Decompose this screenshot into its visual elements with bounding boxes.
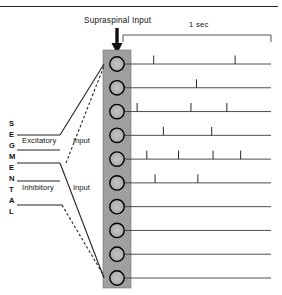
spike-train-row bbox=[110, 223, 271, 237]
neuron-soma bbox=[110, 199, 124, 213]
neuron-soma bbox=[110, 176, 124, 190]
figure-canvas: Supraspinal Input 1 sec S E G M E N T A … bbox=[0, 0, 282, 295]
spike-train-row bbox=[110, 271, 271, 285]
neuron-soma bbox=[110, 104, 124, 118]
segmental-bracket-rails bbox=[17, 135, 62, 205]
neuron-soma bbox=[110, 271, 124, 285]
spike-train-row bbox=[110, 79, 271, 95]
spike-train-row bbox=[110, 56, 271, 72]
spike-train-row bbox=[110, 247, 271, 261]
spike-train-row bbox=[110, 127, 271, 143]
neuron-soma bbox=[110, 223, 124, 237]
spike-train-row bbox=[110, 174, 271, 190]
spike-train-row bbox=[110, 151, 271, 167]
neuron-soma bbox=[110, 81, 124, 95]
time-scalebar bbox=[123, 35, 271, 42]
neuron-raster-diagram bbox=[0, 0, 282, 295]
raster-layer bbox=[110, 56, 271, 286]
inhibitory-connection-lines bbox=[60, 163, 104, 278]
neuron-soma bbox=[110, 128, 124, 142]
excitatory-connection-lines bbox=[60, 64, 104, 163]
neuron-soma bbox=[110, 57, 124, 71]
spike-train-row bbox=[110, 199, 271, 213]
neuron-soma bbox=[110, 152, 124, 166]
spike-train-row bbox=[110, 103, 271, 119]
neuron-soma bbox=[110, 247, 124, 261]
